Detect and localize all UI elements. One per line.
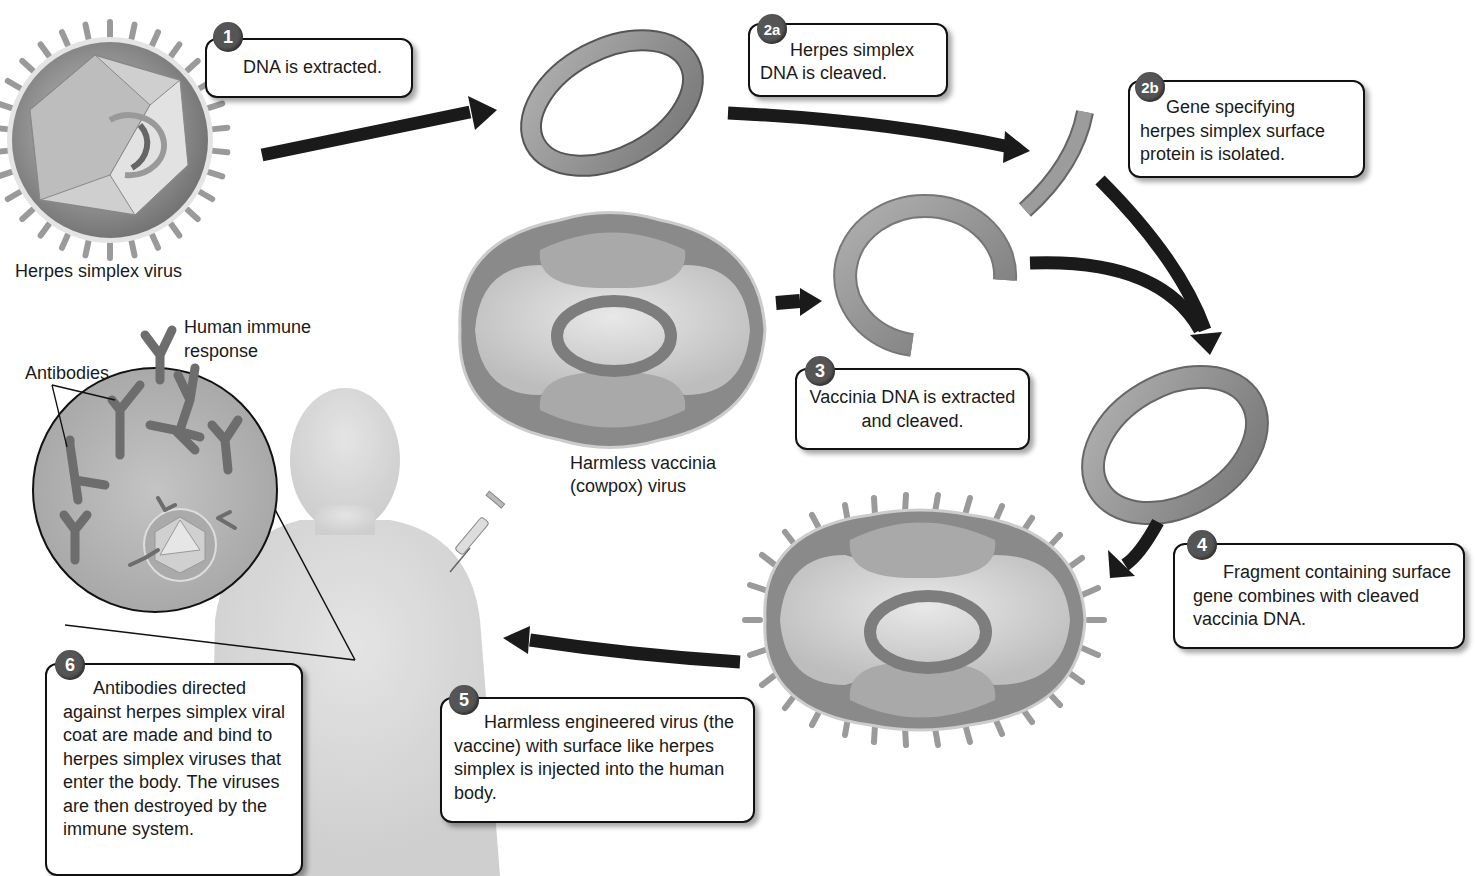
step-5-text: Harmless engineered virus (the vaccine) … bbox=[454, 712, 734, 803]
step-2a-text: Herpes simplex DNA is cleaved. bbox=[760, 40, 914, 83]
vaccinia-virus-icon bbox=[460, 213, 765, 448]
recombinant-dna-ring-icon bbox=[1069, 349, 1281, 541]
step-5-callout: Harmless engineered virus (the vaccine) … bbox=[440, 697, 755, 823]
step-3-text: Vaccinia DNA is extracted and cleaved. bbox=[810, 387, 1016, 431]
step-2b-badge: 2b bbox=[1135, 72, 1165, 102]
step-2b-text: Gene specifying herpes simplex surface p… bbox=[1140, 97, 1325, 164]
step-4-callout: Fragment containing surface gene combine… bbox=[1173, 543, 1465, 649]
step-2a-badge: 2a bbox=[757, 14, 787, 44]
herpes-simplex-virus-icon bbox=[0, 22, 227, 258]
cleaved-vaccinia-dna-icon bbox=[845, 206, 1005, 345]
herpes-virus-label: Herpes simplex virus bbox=[15, 260, 182, 283]
herpes-dna-ring-icon bbox=[510, 14, 714, 191]
step-2b-callout: Gene specifying herpes simplex surface p… bbox=[1128, 80, 1365, 178]
step-6-callout: Antibodies directed against herpes simpl… bbox=[45, 663, 303, 876]
step-4-text: Fragment containing surface gene combine… bbox=[1193, 562, 1451, 629]
step-1-badge: 1 bbox=[213, 22, 243, 52]
step-3-badge: 3 bbox=[805, 356, 835, 386]
step-5-badge: 5 bbox=[449, 685, 479, 715]
immune-response-label-line1: Human immune bbox=[184, 316, 311, 339]
immune-response-label-line2: response bbox=[184, 340, 258, 363]
step-6-badge: 6 bbox=[55, 650, 85, 680]
antibodies-label: Antibodies bbox=[25, 362, 109, 385]
step-4-badge: 4 bbox=[1187, 530, 1217, 560]
step-6-text: Antibodies directed against herpes simpl… bbox=[63, 678, 285, 839]
vaccinia-virus-label-line1: Harmless vaccinia bbox=[570, 452, 716, 475]
engineered-vaccine-virus-icon bbox=[745, 495, 1104, 745]
gene-fragment-icon bbox=[1025, 112, 1085, 210]
step-1-text: DNA is extracted. bbox=[243, 57, 382, 77]
vaccinia-virus-label-line2: (cowpox) virus bbox=[570, 475, 686, 498]
